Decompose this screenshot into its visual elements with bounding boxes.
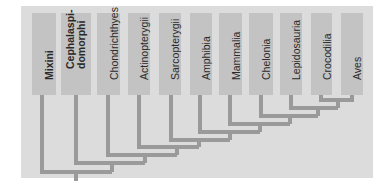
cladogram-tree (0, 0, 392, 190)
branch-crocodilia-aves (321, 95, 352, 100)
branch-cephalaspidomorphi (76, 95, 145, 163)
